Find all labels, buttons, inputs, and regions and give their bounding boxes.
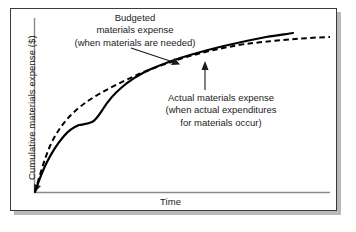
actual-annotation-arrowhead bbox=[202, 61, 209, 70]
budgeted-expense-annotation: Budgeted materials expense (when materia… bbox=[62, 12, 208, 49]
budgeted-annotation-line-1: Budgeted bbox=[62, 12, 208, 24]
actual-annotation-line-1: Actual materials expense bbox=[146, 92, 296, 104]
actual-annotation-line-3: for materials occur) bbox=[146, 117, 296, 129]
actual-annotation-line-2: (when actual expenditures bbox=[146, 104, 296, 116]
budgeted-annotation-line-2: materials expense bbox=[62, 24, 208, 36]
x-axis-title: Time bbox=[160, 196, 181, 207]
actual-expense-annotation: Actual materials expense (when actual ex… bbox=[146, 92, 296, 129]
y-axis-title: Cumulative materials expense ($) bbox=[26, 35, 37, 180]
chart-screenshot: Cumulative materials expense ($) Time Bu… bbox=[0, 0, 356, 232]
budgeted-annotation-arrow-line bbox=[131, 48, 176, 63]
budgeted-annotation-line-3: (when materials are needed) bbox=[62, 37, 208, 49]
